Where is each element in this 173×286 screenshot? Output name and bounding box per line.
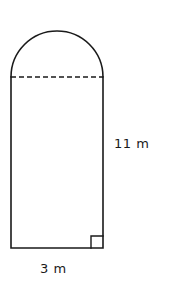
- height-dimension-label: 11 m: [114, 137, 149, 150]
- width-dimension-label: 3 m: [40, 262, 67, 275]
- rectangle-body-outline: [11, 77, 103, 248]
- semicircle-dome-arc: [11, 31, 103, 77]
- geometry-figure: 11 m 3 m: [0, 0, 173, 286]
